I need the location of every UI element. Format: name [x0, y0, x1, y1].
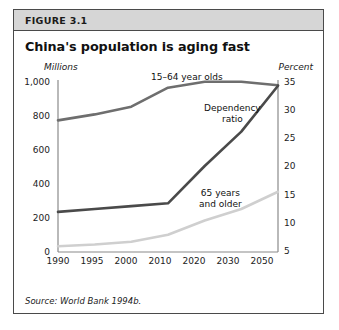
x-tick-2000: 2000: [111, 256, 141, 266]
y-tick-right-10: 10: [284, 218, 308, 228]
figure-source-note: Source: World Bank 1994b.: [25, 296, 141, 306]
y-tick-right-25: 25: [284, 133, 308, 143]
figure-box: FIGURE 3.1 China's population is aging f…: [13, 9, 324, 314]
right-axis-unit-label: Percent: [279, 62, 313, 72]
y-tick-left-1000: 1,000: [16, 77, 50, 87]
y-tick-right-15: 15: [284, 190, 308, 200]
y-tick-right-30: 30: [284, 105, 308, 115]
y-tick-left-200: 200: [16, 213, 50, 223]
series-label-15-64: 15–64 year olds: [151, 72, 223, 83]
series-label-dependency-ratio: Dependency ratio: [204, 103, 261, 125]
y-tick-left-400: 400: [16, 179, 50, 189]
chart-svg: [14, 60, 323, 278]
x-tick-2030: 2030: [213, 256, 243, 266]
figure-header: FIGURE 3.1: [14, 10, 323, 31]
chart-plot-area: Millions Percent 1,000 800 600 400 200 0…: [14, 60, 323, 278]
series-label-65-line2: and older: [199, 199, 242, 209]
y-tick-left-600: 600: [16, 145, 50, 155]
y-tick-right-20: 20: [284, 161, 308, 171]
series-label-dependency-line2: ratio: [222, 114, 243, 124]
series-label-65-plus: 65 years and older: [199, 188, 242, 210]
x-tick-2010: 2010: [145, 256, 175, 266]
series-line-65-years-and-older: [58, 192, 278, 247]
y-tick-left-800: 800: [16, 111, 50, 121]
series-label-dependency-line1: Dependency: [204, 103, 261, 113]
x-tick-1995: 1995: [77, 256, 107, 266]
figure-number-label: FIGURE 3.1: [14, 15, 87, 26]
y-tick-right-35: 35: [284, 77, 308, 87]
left-axis-unit-label: Millions: [44, 62, 78, 72]
x-tick-1990: 1990: [43, 256, 73, 266]
x-tick-2020: 2020: [179, 256, 209, 266]
series-label-65-line1: 65 years: [201, 188, 240, 198]
x-tick-2050: 2050: [247, 256, 277, 266]
figure-title: China's population is aging fast: [14, 31, 323, 54]
y-tick-right-5: 5: [284, 246, 308, 256]
